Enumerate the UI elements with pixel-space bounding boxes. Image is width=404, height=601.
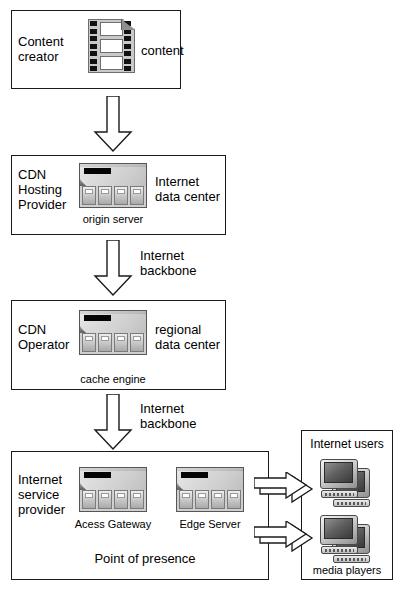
arrow-hosting-to-operator-icon (93, 240, 133, 296)
access-gateway-caption: Acess Gateway (62, 517, 164, 532)
origin-server-caption: origin server (62, 212, 164, 227)
internet-backbone-label-upper: Internet backbone (140, 248, 196, 278)
media-players-caption: media players (301, 563, 393, 578)
arrow-isp-to-users-top-icon (254, 472, 314, 506)
server-status-bar (84, 315, 111, 321)
film-strip-icon (88, 19, 135, 73)
internet-users-title: Internet users (301, 437, 393, 452)
point-of-presence-label: Point of presence (60, 551, 230, 566)
content-creator-role-label: Content creator (18, 34, 64, 64)
origin-server-icon (79, 163, 147, 208)
monitor-front-unit (320, 459, 360, 497)
content-icon-caption: content (141, 43, 184, 58)
arrow-creator-to-hosting-icon (93, 96, 133, 152)
server-drive-bays (80, 331, 146, 354)
edge-server-caption: Edge Server (159, 517, 261, 532)
internet-data-center-label: Internet data center (155, 174, 220, 204)
monitor-front-unit (320, 515, 360, 553)
server-drive-bays (177, 488, 243, 511)
regional-data-center-label: regional data center (155, 322, 220, 352)
cache-engine-caption: cache engine (62, 372, 164, 387)
monitor-keyboard (321, 546, 358, 554)
server-status-bar (84, 472, 111, 478)
server-status-bar (84, 168, 111, 174)
arrow-operator-to-isp-icon (93, 394, 133, 450)
server-top-panel (80, 311, 146, 333)
server-top-panel (177, 468, 243, 490)
monitor-screen (324, 518, 353, 539)
edge-server-icon (176, 467, 244, 512)
cdn-hosting-provider-role-label: CDN Hosting Provider (18, 167, 66, 212)
media-player-icon-top (318, 459, 374, 509)
server-top-panel (80, 468, 146, 490)
server-drive-bays (80, 488, 146, 511)
monitor-keyboard (333, 499, 370, 507)
server-top-panel (80, 164, 146, 186)
monitor-keyboard (321, 490, 358, 498)
server-status-bar (181, 472, 208, 478)
arrow-isp-to-users-bottom-icon (254, 521, 314, 555)
cache-engine-icon (79, 310, 147, 355)
media-player-icon-bottom (318, 515, 374, 565)
server-drive-bays (80, 184, 146, 207)
cdn-operator-role-label: CDN Operator (18, 322, 69, 352)
isp-role-label: Internet service provider (18, 472, 65, 517)
access-gateway-icon (79, 467, 147, 512)
monitor-keyboard (333, 555, 370, 563)
cdn-architecture-diagram: Content creator content CDN Hosting Prov… (0, 0, 404, 601)
film-sprockets-left (90, 21, 99, 71)
internet-backbone-label-lower: Internet backbone (140, 401, 196, 431)
monitor-screen (324, 462, 353, 483)
film-frames (100, 22, 123, 70)
